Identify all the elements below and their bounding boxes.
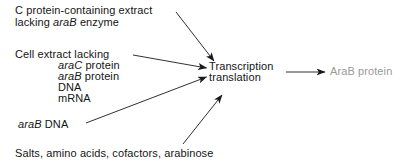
label-salts-amino-acids: Salts, amino acids, cofactors, arabinose	[15, 148, 213, 160]
gene-name-arab-dna: araB	[18, 118, 42, 130]
list-item-arab-protein-rest: protein	[82, 70, 120, 82]
arrow-extract-to-process	[176, 12, 214, 61]
arrow-salts-to-process	[183, 95, 222, 144]
label-output-arab-protein: AraB protein	[330, 66, 392, 78]
label-extract-line2-prefix: lacking	[15, 16, 53, 28]
label-extract-line1: C protein-containing extract	[15, 5, 152, 17]
arrow-cell-extract-to-process	[133, 55, 207, 68]
label-extract-line2-suffix: enzyme	[77, 16, 119, 28]
gene-name-arab-enzyme: araB	[53, 16, 77, 28]
list-item-mrna: mRNA	[58, 93, 91, 105]
label-arab-dna: araB DNA	[18, 119, 68, 131]
arrow-arab-dna-to-process	[86, 77, 207, 123]
label-process-translation: translation	[209, 72, 261, 84]
label-arab-dna-rest: DNA	[42, 118, 69, 130]
biochemistry-flow-diagram: C protein-containing extract lacking ara…	[0, 0, 411, 166]
label-extract-line2: lacking araB enzyme	[15, 17, 119, 29]
